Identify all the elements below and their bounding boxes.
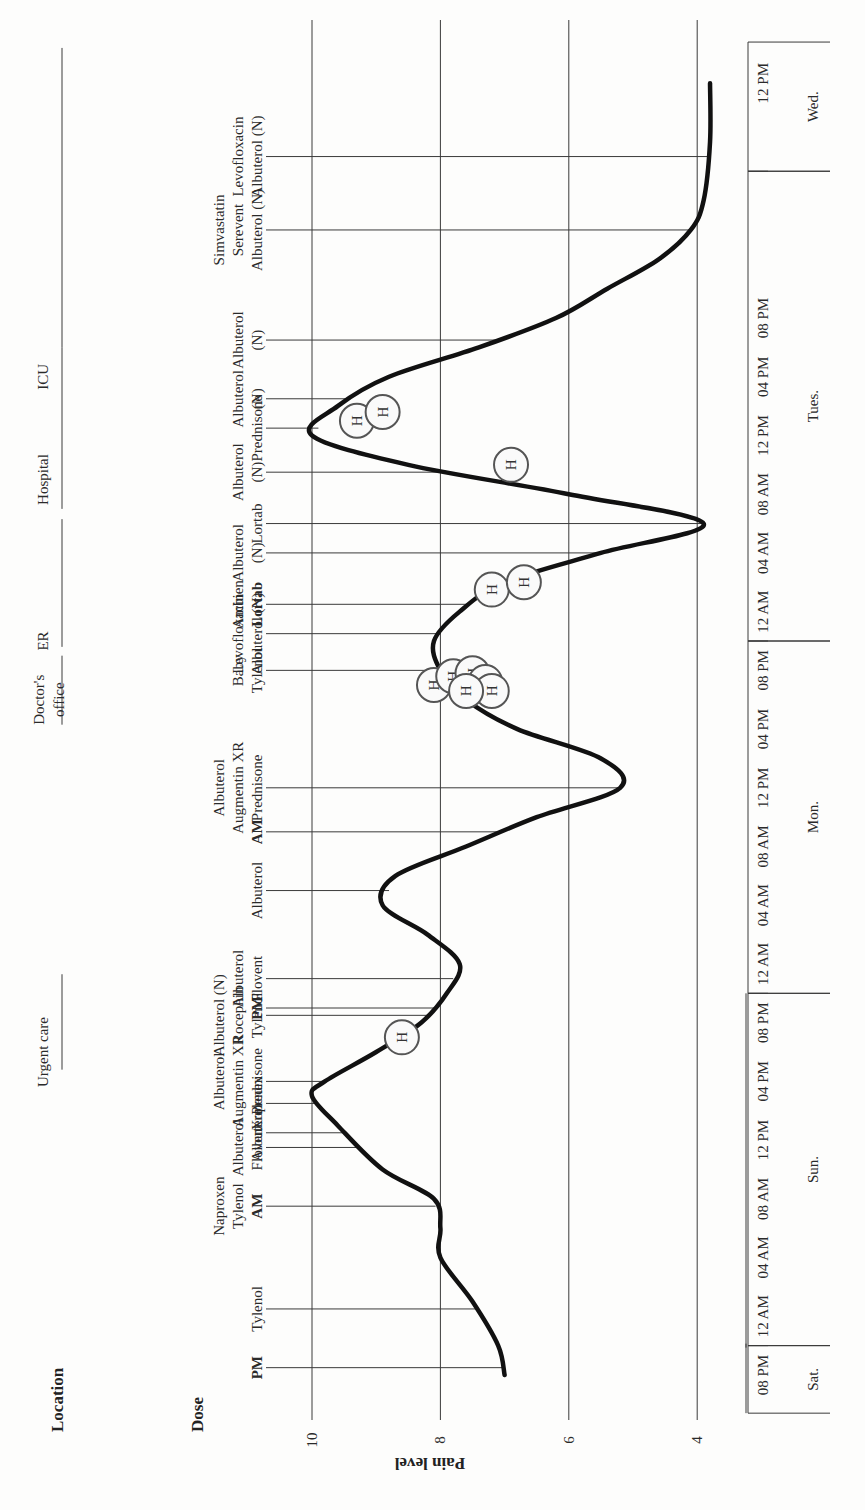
x-tick-label: 04 PM (755, 709, 771, 749)
svg-text:H: H (484, 685, 500, 696)
location-label: ICU (35, 364, 51, 390)
dose-label: Albuterol (N) (249, 189, 266, 271)
dose-label: Albuterol (211, 1053, 227, 1111)
dose-label: Naproxen (211, 1176, 227, 1236)
svg-text:H: H (394, 1032, 410, 1043)
dose-label: Albuterol (230, 950, 246, 1008)
dose-label: Albuterol (230, 370, 246, 428)
dose-leader-lines (266, 157, 708, 1368)
x-tick-label: 12 PM (755, 415, 771, 455)
x-tick-label: 08 AM (755, 1178, 771, 1220)
dose-label: (N) (249, 330, 266, 351)
hospital-marker-icon: H (366, 395, 400, 429)
x-tick-label: 04 AM (755, 1237, 771, 1279)
dose-label: Ambien (230, 580, 246, 629)
dose-label: Albuterol (230, 311, 246, 369)
x-tick-label: 12 AM (755, 1295, 771, 1337)
location-row-header: Location (48, 1367, 67, 1432)
day-label: Mon. (805, 801, 821, 833)
dose-label: Albuterol (230, 524, 246, 582)
x-tick-label: 08 AM (755, 825, 771, 867)
pain-curve (309, 83, 711, 1375)
dose-label: Augmentin XR (230, 742, 246, 834)
dose-label: Lortab (249, 582, 265, 627)
dose-label: Augmentin XR (230, 1035, 246, 1127)
hospital-marker-icon: H (449, 674, 483, 708)
x-tick-label: 08 AM (755, 473, 771, 515)
x-tick-label: 08 PM (755, 1002, 771, 1042)
day-label: Sat. (805, 1368, 821, 1391)
hospital-marker-icon: H (494, 448, 528, 482)
day-label: Wed. (805, 91, 821, 122)
dose-label: Tylenol (249, 1286, 265, 1332)
dose-label: Prednisone (249, 1048, 265, 1115)
pain-level-timeline-chart: HHHHHHHHHHHH 10864Pain levelLocationDose… (0, 0, 865, 1510)
svg-text:H: H (484, 584, 500, 595)
location-label: Urgent care (35, 1017, 51, 1087)
dose-label: Levofloxacin (230, 116, 246, 196)
x-tick-label: 04 PM (755, 1061, 771, 1101)
dose-label: Albuterol (249, 862, 265, 920)
x-tick-label: 04 PM (755, 357, 771, 397)
day-label: Sun. (805, 1156, 821, 1183)
x-tick-label: 12 PM (755, 1120, 771, 1160)
svg-text:H: H (375, 406, 391, 417)
dose-label: Flovent (249, 955, 265, 1002)
x-tick-label: 12 AM (755, 591, 771, 633)
dose-label: Albuterol (211, 759, 227, 817)
dose-label: (N) (249, 388, 266, 409)
location-label: office (51, 682, 67, 717)
svg-text:H: H (349, 415, 365, 426)
y-axis-title: Pain level (395, 1454, 466, 1473)
svg-text:H: H (458, 685, 474, 696)
dose-label: Prednisone (249, 754, 265, 821)
y-tick-label: 8 (432, 1436, 448, 1444)
dose-row-header: Dose (188, 1397, 207, 1432)
dose-label: Lortab (249, 504, 265, 544)
location-label: Hospital (35, 454, 51, 505)
hospital-marker-icon: H (475, 573, 509, 607)
svg-text:H: H (516, 577, 532, 588)
x-tick-label: 08 PM (755, 650, 771, 690)
dose-label: PM (249, 1356, 265, 1379)
hospital-marker-icon: H (385, 1020, 419, 1054)
x-tick-label: 08 PM (755, 1355, 771, 1395)
dose-label: AM (249, 819, 265, 844)
dose-label: Albuterol (230, 443, 246, 501)
dose-label: AM (249, 1194, 265, 1219)
dose-label: Albuterol (N) (211, 974, 228, 1056)
svg-text:H: H (503, 459, 519, 470)
x-tick-label: 12 PM (755, 63, 771, 103)
y-tick-label: 10 (304, 1433, 320, 1448)
dose-label: Simvastatin (211, 194, 227, 265)
dose-label: (N) (249, 462, 266, 483)
hospital-marker-icon: H (507, 565, 541, 599)
location-label: Doctor's (31, 674, 47, 724)
dose-label: (N) (249, 543, 266, 564)
dose-label: Albuterol (N) (249, 116, 266, 198)
x-tick-label: 08 PM (755, 298, 771, 338)
pain-level-line (309, 83, 711, 1375)
x-tick-label: 04 AM (755, 884, 771, 926)
day-label: Tues. (805, 390, 821, 422)
labels-layer: 10864Pain levelLocationDose08 PM12 AM04 … (31, 63, 821, 1473)
x-tick-label: 04 AM (755, 532, 771, 574)
y-tick-label: 6 (561, 1436, 577, 1444)
x-tick-label: 12 AM (755, 943, 771, 985)
dose-label: Tylenol (230, 1183, 246, 1229)
dose-label: Serevent (230, 203, 246, 256)
x-tick-label: 12 PM (755, 768, 771, 808)
y-tick-label: 4 (689, 1436, 705, 1444)
location-label: ER (35, 631, 51, 650)
